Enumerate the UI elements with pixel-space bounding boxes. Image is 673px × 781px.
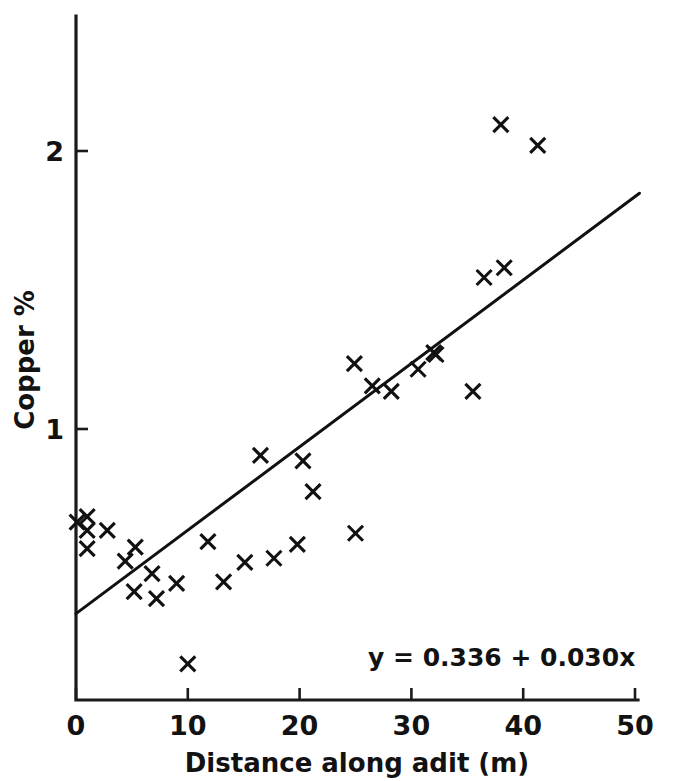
x-tick-label-50: 50 [616,710,654,741]
data-point-marker [306,484,321,499]
regression-equation-annotation: y = 0.336 + 0.030x [368,643,635,672]
data-point-marker [149,591,164,606]
axes-group [76,16,638,700]
plot-canvas: 01020304050 12 y = 0.336 + 0.030x Distan… [0,0,673,781]
x-tick-label-30: 30 [393,710,431,741]
data-point-marker [530,138,545,153]
data-point-marker [80,541,95,556]
axis-lines [76,16,638,700]
data-point-marker [237,555,252,570]
data-point-marker [169,576,184,591]
data-point-markers [70,117,546,671]
x-axis-title: Distance along adit (m) [185,748,529,778]
data-point-marker [347,356,362,371]
data-point-marker [118,554,133,569]
data-point-marker [295,453,310,468]
data-point-marker [216,574,231,589]
data-point-marker [290,537,305,552]
x-tick-label-10: 10 [169,710,207,741]
data-point-marker [128,540,143,555]
y-axis-title: Copper % [10,290,40,430]
y-tick-label-1: 1 [45,414,64,445]
data-point-marker [348,526,363,541]
x-tick-label-0: 0 [67,710,86,741]
data-point-marker [127,584,142,599]
data-point-marker [477,270,492,285]
x-tick-label-40: 40 [504,710,542,741]
data-point-marker [497,260,512,275]
data-point-marker [266,551,281,566]
x-tick-label-20: 20 [281,710,319,741]
data-point-marker [145,566,160,581]
y-axis-ticks [76,151,88,429]
data-point-marker [200,534,215,549]
data-point-marker [80,523,95,538]
data-point-marker [493,117,508,132]
data-point-marker [384,384,399,399]
data-point-marker [180,656,195,671]
y-axis-tick-labels: 12 [45,136,64,445]
data-point-marker [253,448,268,463]
regression-line [76,193,639,613]
scatter-plot-figure: 01020304050 12 y = 0.336 + 0.030x Distan… [0,0,673,781]
data-point-marker [465,384,480,399]
x-axis-tick-labels: 01020304050 [67,710,654,741]
y-tick-label-2: 2 [45,136,64,167]
x-axis-ticks [76,688,635,700]
data-point-marker [100,523,115,538]
